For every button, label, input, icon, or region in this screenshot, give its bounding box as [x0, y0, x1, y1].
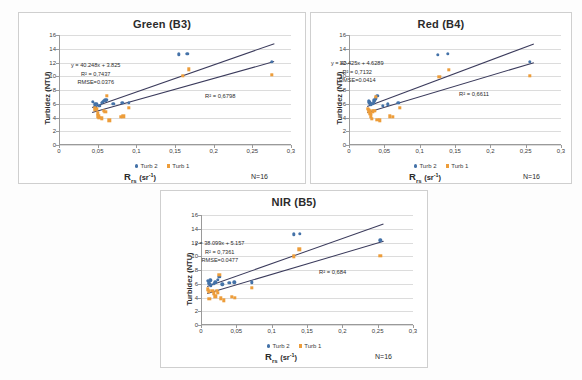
legend-item-turb1-red: Turb 1 — [446, 163, 469, 169]
data-point — [181, 74, 184, 77]
y-axis-tick-label: 16 — [49, 32, 56, 38]
data-point — [233, 296, 236, 299]
legend-marker-turb1-icon — [167, 164, 170, 167]
data-point — [127, 106, 130, 109]
axis-y-line — [201, 215, 202, 325]
chart-title-green: Green (B3) — [19, 18, 305, 30]
data-point — [391, 115, 394, 118]
data-point — [436, 53, 439, 56]
x-axis-tick-mark — [272, 325, 273, 328]
gridline-horizontal — [349, 131, 561, 132]
data-point — [379, 254, 382, 257]
y-axis-label-nir: Turbidez (NTU) — [185, 252, 194, 305]
x-axis-label-green: Rrs (sr-1) — [124, 171, 156, 184]
x-axis-tick-label: 0,05 — [92, 148, 104, 154]
legend-marker-turb2-icon — [414, 164, 417, 167]
data-point — [220, 283, 223, 286]
data-point — [398, 106, 401, 109]
rmse-nir: RMSE=0.0477 — [195, 256, 244, 265]
x-axis-tick-label: 0,25 — [520, 148, 532, 154]
y-axis-tick-label: 10 — [49, 73, 56, 79]
x-axis-tick-mark — [136, 145, 137, 148]
x-axis-tick-label: 0,15 — [301, 328, 313, 334]
r2-secondary-green: R² = 0,6798 — [205, 93, 235, 99]
x-axis-tick-mark — [413, 325, 414, 328]
x-axis-tick-label: 0,15 — [169, 148, 181, 154]
x-axis-tick-label: 0,2 — [209, 148, 217, 154]
x-axis-tick-label: 0 — [199, 328, 202, 334]
annotation-block-red: y = 40.425x + 4.6289 R² = 0,7132 RMSE=0.… — [331, 59, 384, 85]
legend-item-turb1-green: Turb 1 — [167, 163, 190, 169]
axis-y-line — [59, 35, 60, 145]
x-axis-tick-mark — [455, 145, 456, 148]
n-label-green: N=16 — [251, 173, 268, 180]
x-axis-tick-label: 0 — [57, 148, 60, 154]
legend-label-turb2: Turb 2 — [140, 163, 157, 169]
trendline — [367, 43, 534, 106]
y-axis-label-green: Turbidez (NTU) — [43, 71, 52, 124]
data-point — [121, 114, 124, 117]
r2-primary-nir: R² = 0,7361 — [195, 248, 244, 257]
x-axis-tick-mark — [420, 145, 421, 148]
legend-marker-turb2-icon — [267, 344, 270, 347]
x-axis-tick-mark — [98, 145, 99, 148]
y-axis-tick-label: 16 — [191, 212, 198, 218]
x-axis-label-red: Rrs (sr-1) — [409, 171, 441, 184]
r2-primary-red: R² = 0,7132 — [331, 68, 384, 77]
legend-item-turb1-nir: Turb 1 — [299, 343, 322, 349]
y-axis-tick-label: 12 — [49, 60, 56, 66]
x-axis-tick-label: 0,25 — [246, 148, 258, 154]
legend-item-turb2-nir: Turb 2 — [267, 343, 290, 349]
legend-green: Turb 2 Turb 1 — [19, 163, 305, 169]
legend-nir: Turb 2 Turb 1 — [161, 343, 427, 349]
x-axis-tick-mark — [349, 145, 350, 148]
legend-label-turb2: Turb 2 — [272, 343, 289, 349]
gridline-horizontal — [59, 118, 291, 119]
x-axis-tick-label: 0,2 — [338, 328, 346, 334]
data-point — [105, 94, 108, 97]
data-point — [208, 297, 211, 300]
x-axis-tick-mark — [175, 145, 176, 148]
equation-red: y = 40.425x + 4.6289 — [331, 59, 384, 68]
axis-y-line — [349, 35, 350, 145]
gridline-horizontal — [201, 270, 413, 271]
legend-marker-turb1-icon — [446, 164, 449, 167]
plot-area-nir: 024681012141600,050,10,150,20,250,3 — [201, 215, 413, 325]
data-point — [438, 75, 441, 78]
data-point — [213, 294, 216, 297]
gridline-horizontal — [201, 215, 413, 216]
x-axis-tick-mark — [214, 145, 215, 148]
data-point — [374, 95, 377, 98]
x-axis-label-nir: Rrs (sr-1) — [265, 351, 297, 364]
data-point — [378, 119, 381, 122]
x-axis-tick-mark — [307, 325, 308, 328]
gridline-horizontal — [349, 90, 561, 91]
annotation-block-green: y = 40.248x + 3.825 R² = 0,7437 RMSE=0.0… — [71, 61, 120, 87]
x-axis-tick-label: 0,1 — [415, 148, 423, 154]
n-label-red: N=16 — [523, 173, 540, 180]
x-axis-tick-label: 0,1 — [132, 148, 140, 154]
x-axis-tick-mark — [59, 145, 60, 148]
gridline-horizontal — [59, 35, 291, 36]
x-axis-tick-label: 0,1 — [267, 328, 275, 334]
x-axis-tick-mark — [561, 145, 562, 148]
x-axis-tick-label: 0,2 — [486, 148, 494, 154]
data-point — [370, 117, 373, 120]
gridline-horizontal — [349, 35, 561, 36]
data-point — [447, 68, 450, 71]
data-point — [446, 52, 449, 55]
data-point — [298, 232, 301, 235]
chart-panel-red: Red (B4) Turbidez (NTU) 024681012141600,… — [310, 12, 572, 184]
gridline-horizontal — [59, 131, 291, 132]
x-axis-tick-label: 0 — [347, 148, 350, 154]
equation-green: y = 40.248x + 3.825 — [71, 61, 120, 70]
r2-primary-green: R² = 0,7437 — [71, 70, 120, 79]
x-axis-tick-label: 0,15 — [449, 148, 461, 154]
gridline-horizontal — [59, 90, 291, 91]
data-point — [186, 52, 189, 55]
n-label-nir: N=16 — [375, 353, 392, 360]
x-axis-tick-label: 0,3 — [409, 328, 417, 334]
plot-area-red: 024681012141600,050,10,150,20,250,3 — [349, 35, 561, 145]
x-axis-tick-label: 0,3 — [287, 148, 295, 154]
r2-secondary-red: R² = 0,6611 — [459, 91, 489, 97]
